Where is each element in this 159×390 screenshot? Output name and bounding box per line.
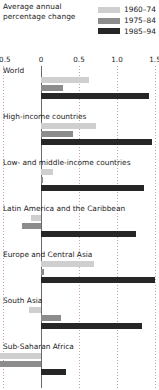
- category-label: High-income countries: [3, 112, 86, 121]
- bar-1975-84: [0, 361, 41, 367]
- category-label: Europe and Central Asia: [3, 250, 92, 259]
- bar-1975-84: [41, 315, 61, 321]
- category-label: Low- and middle-income countries: [3, 158, 131, 167]
- legend-swatch-1960-74: [98, 7, 120, 13]
- legend-label-1975-84: 1975–84: [124, 16, 156, 26]
- legend-swatch-1985-94: [98, 28, 120, 34]
- chart-title: Average annual percentage change: [3, 2, 95, 21]
- x-axis-tick-labels: –0.500.51.01.5: [0, 55, 159, 65]
- x-tick-label: 0: [39, 55, 44, 64]
- category-label: Sub-Saharan Africa: [3, 342, 74, 351]
- bar-1985-94: [41, 185, 144, 191]
- bar-1960-74: [41, 261, 94, 267]
- bar-1975-84: [22, 223, 41, 229]
- x-tick-label: 0.5: [73, 55, 84, 64]
- bar-1975-84: [41, 85, 63, 91]
- bar-1975-84: [41, 177, 43, 183]
- legend-item: 1985–94: [98, 27, 156, 37]
- bar-1975-84: [41, 269, 44, 275]
- bar-1985-94: [41, 369, 66, 375]
- category-group: Low- and middle-income countries: [0, 158, 159, 204]
- category-label: South Asia: [3, 296, 42, 305]
- bar-1960-74: [41, 123, 96, 129]
- category-group: Europe and Central Asia: [0, 250, 159, 296]
- category-label: Latin America and the Caribbean: [3, 204, 125, 213]
- legend-item: 1975–84: [98, 16, 156, 26]
- category-label: World: [3, 66, 24, 75]
- bar-1985-94: [41, 323, 142, 329]
- bar-1985-94: [41, 231, 136, 237]
- legend-item: 1960–74: [98, 5, 156, 15]
- x-tick-label: 1.5: [149, 55, 159, 64]
- bar-1960-74: [41, 77, 89, 83]
- bar-1975-84: [41, 131, 73, 137]
- category-group: Latin America and the Caribbean: [0, 204, 159, 250]
- chart-container: Average annual percentage change 1960–74…: [0, 0, 159, 390]
- category-group: Sub-Saharan Africa: [0, 342, 159, 388]
- bar-1960-74: [0, 353, 41, 359]
- legend-swatch-1975-84: [98, 18, 120, 24]
- category-group: South Asia: [0, 296, 159, 342]
- x-tick-label: –0.5: [0, 55, 11, 64]
- x-tick-label: 1.0: [111, 55, 122, 64]
- legend-label-1960-74: 1960–74: [124, 5, 156, 15]
- bar-1960-74: [29, 307, 41, 313]
- bar-1985-94: [41, 93, 149, 99]
- chart-legend: 1960–74 1975–84 1985–94: [98, 5, 156, 37]
- category-group: World: [0, 66, 159, 112]
- bar-1985-94: [41, 139, 152, 145]
- legend-label-1985-94: 1985–94: [124, 27, 156, 37]
- bar-1960-74: [41, 169, 53, 175]
- bar-1985-94: [41, 277, 155, 283]
- category-group: High-income countries: [0, 112, 159, 158]
- bar-1960-74: [31, 215, 41, 221]
- plot-area: WorldHigh-income countriesLow- and middl…: [0, 66, 159, 388]
